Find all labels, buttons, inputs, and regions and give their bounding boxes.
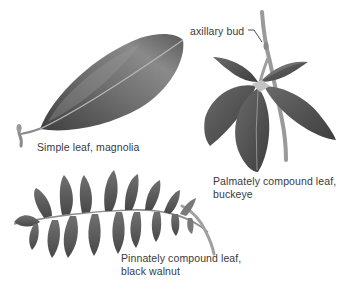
caption-magnolia: Simple leaf, magnolia xyxy=(37,141,140,154)
axillary-bud-leader-line xyxy=(248,30,262,42)
caption-buckeye-line1: Palmately compound leaf, xyxy=(213,175,336,188)
caption-walnut-line2: black walnut xyxy=(121,265,241,278)
annotation-axillary-bud: axillary bud xyxy=(190,25,244,38)
caption-walnut-line1: Pinnately compound leaf, xyxy=(121,252,241,265)
caption-buckeye-line2: buckeye xyxy=(213,188,336,201)
axillary-bud-label: axillary bud xyxy=(190,25,244,37)
caption-magnolia-line1: Simple leaf, magnolia xyxy=(37,141,140,153)
leaf-types-figure: Simple leaf, magnolia Palmately compound… xyxy=(0,0,348,285)
black-walnut-leaf xyxy=(14,170,214,258)
caption-black-walnut: Pinnately compound leaf, black walnut xyxy=(121,252,241,278)
caption-buckeye: Palmately compound leaf, buckeye xyxy=(213,175,336,201)
magnolia-leaf xyxy=(17,34,184,146)
